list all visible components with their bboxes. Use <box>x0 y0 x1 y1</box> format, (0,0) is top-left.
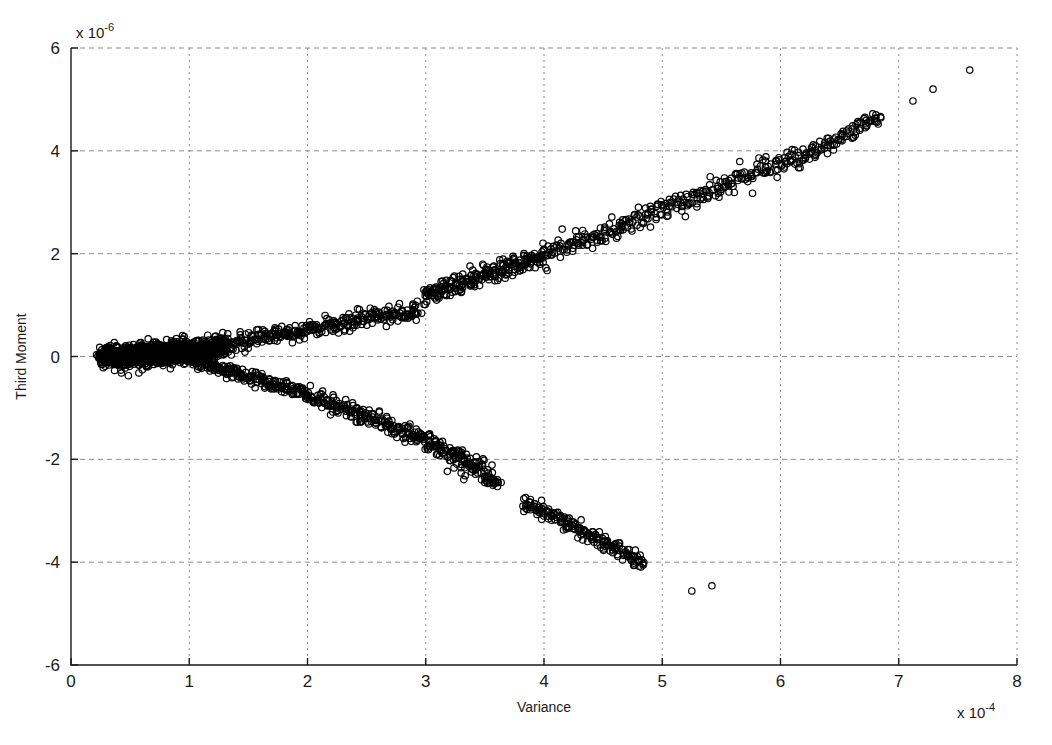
y-axis-label: Third Moment <box>13 313 29 399</box>
y-tick-label: 6 <box>51 39 60 58</box>
x-tick-label: 2 <box>303 672 312 691</box>
y-tick-label: 2 <box>51 245 60 264</box>
scatter-plot: 012345678-6-4-20246 Variance Third Momen… <box>0 0 1052 745</box>
x-tick-label: 7 <box>894 672 903 691</box>
x-axis-exponent: x 10-4 <box>957 701 995 721</box>
y-tick-label: -6 <box>45 656 60 675</box>
y-tick-label: -2 <box>45 450 60 469</box>
x-axis-label: Variance <box>517 699 571 715</box>
data-points <box>93 67 973 594</box>
y-tick-label: 4 <box>51 142 60 161</box>
y-tick-label: -4 <box>45 553 60 572</box>
x-tick-label: 0 <box>66 672 75 691</box>
x-tick-label: 4 <box>539 672 548 691</box>
x-tick-label: 1 <box>185 672 194 691</box>
x-tick-label: 3 <box>421 672 430 691</box>
y-tick-label: 0 <box>51 348 60 367</box>
figure-canvas: 012345678-6-4-20246 Variance Third Momen… <box>0 0 1052 745</box>
x-tick-label: 6 <box>776 672 785 691</box>
x-tick-label: 8 <box>1012 672 1021 691</box>
y-axis-exponent: x 10-6 <box>76 21 114 41</box>
x-tick-label: 5 <box>658 672 667 691</box>
